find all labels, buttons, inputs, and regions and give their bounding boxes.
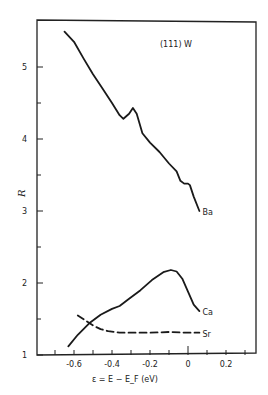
- x-tick-label: -0.6: [66, 360, 82, 369]
- chart-title: (111) W: [160, 40, 192, 49]
- chart: 12345 -0.6-0.4-0.200.2 BaCaSr (111) W R …: [0, 0, 268, 395]
- y-tick-label: 1: [22, 351, 27, 360]
- y-tick-label: 5: [22, 63, 27, 72]
- x-tick-label: -0.4: [104, 360, 120, 369]
- y-tick-label: 2: [22, 279, 27, 288]
- y-tick-label: 3: [22, 207, 27, 216]
- series-label-sr: Sr: [202, 330, 211, 339]
- y-tick-label: 4: [22, 135, 27, 144]
- x-tick-label: 0: [185, 360, 190, 369]
- series-label-ba: Ba: [202, 208, 212, 217]
- plot-frame: [37, 20, 256, 355]
- axes-box: [37, 20, 256, 355]
- x-axis-label: ε = E − E_F (eV): [92, 375, 158, 384]
- series-ca: [68, 270, 199, 346]
- x-tick-label: 0.2: [220, 360, 233, 369]
- x-axis: -0.6-0.4-0.200.2: [55, 346, 245, 369]
- x-tick-label: -0.2: [142, 360, 158, 369]
- series-label-ca: Ca: [202, 308, 213, 317]
- y-axis: 12345: [22, 63, 43, 360]
- series-ba: [65, 32, 200, 211]
- y-axis-label: R: [16, 189, 27, 198]
- plot-series: BaCaSr: [65, 32, 213, 347]
